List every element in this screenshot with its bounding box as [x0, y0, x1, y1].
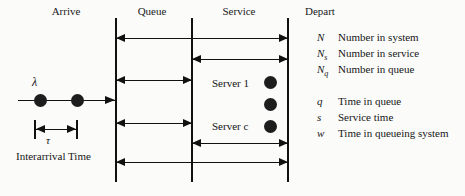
interarrival-symbol-label: τ	[46, 134, 50, 146]
measure-arrow-time-in-queue	[116, 119, 192, 128]
interarrival-interval-bracket	[34, 120, 78, 140]
arrow-head-right-icon	[183, 119, 192, 127]
column-header-depart: Depart	[305, 5, 365, 17]
arrow-shaft	[192, 59, 288, 60]
server-entity-dot	[264, 76, 277, 89]
arrow-head-left-icon	[192, 139, 201, 147]
arrow-head-right-icon	[67, 125, 76, 133]
measure-arrow-number-in-service	[192, 55, 288, 64]
arrow-head-right-icon	[279, 34, 288, 42]
legend-description: Time in queue	[338, 94, 401, 108]
server-entity-dot	[264, 120, 277, 133]
legend: N Number in system Ns Number in service …	[305, 30, 463, 142]
legend-description: Number in service	[338, 46, 419, 60]
legend-description: Number in queue	[338, 62, 414, 76]
arrow-head-left-icon	[116, 158, 125, 166]
interarrival-time-label: Interarrival Time	[16, 150, 91, 162]
arrow-head-left-icon	[192, 55, 201, 63]
arrow-shaft	[116, 38, 288, 39]
arrow-head-right-icon	[279, 158, 288, 166]
arrow-shaft	[192, 143, 288, 144]
server-label-c: Server c	[212, 120, 248, 132]
measure-arrow-service-time	[192, 139, 288, 148]
arrow-head-left-icon	[116, 119, 125, 127]
queueing-diagram: Arrive Queue Service Depart λ	[0, 0, 465, 196]
arrival-arrow-head-icon	[105, 96, 115, 104]
legend-description: Number in system	[338, 30, 419, 44]
arrow-head-right-icon	[279, 55, 288, 63]
arrival-stream-line	[18, 100, 115, 101]
arrow-head-right-icon	[279, 139, 288, 147]
legend-symbol: w	[317, 126, 324, 145]
legend-entry: Nq Number in queue	[305, 62, 463, 78]
arriving-entity-dot	[34, 94, 47, 107]
measure-arrow-time-in-system	[116, 158, 288, 167]
arrow-head-left-icon	[116, 76, 125, 84]
arrival-rate-label: λ	[32, 76, 37, 89]
legend-entry: N Number in system	[305, 30, 463, 46]
arriving-entity-dot	[71, 94, 84, 107]
column-header-arrive: Arrive	[38, 5, 94, 17]
legend-group-separator	[305, 78, 463, 94]
legend-entry: q Time in queue	[305, 94, 463, 110]
arrow-shaft	[116, 162, 288, 163]
arrow-shaft	[116, 80, 192, 81]
legend-entry: w Time in queueing system	[305, 126, 463, 142]
server-entity-dot	[264, 98, 277, 111]
bracket-tick-end	[76, 120, 78, 139]
legend-description: Time in queueing system	[338, 126, 449, 140]
arrow-head-right-icon	[183, 76, 192, 84]
arrow-shaft	[116, 123, 192, 124]
legend-description: Service time	[338, 110, 393, 124]
measure-arrow-number-in-queue	[116, 76, 192, 85]
column-header-service: Service	[209, 5, 269, 17]
arrow-head-left-icon	[116, 34, 125, 42]
column-header-queue: Queue	[124, 5, 180, 17]
server-label-1: Server 1	[212, 77, 249, 89]
legend-entry: Ns Number in service	[305, 46, 463, 62]
measure-arrow-number-in-system	[116, 34, 288, 43]
legend-entry: s Service time	[305, 110, 463, 126]
arrow-head-left-icon	[36, 125, 45, 133]
